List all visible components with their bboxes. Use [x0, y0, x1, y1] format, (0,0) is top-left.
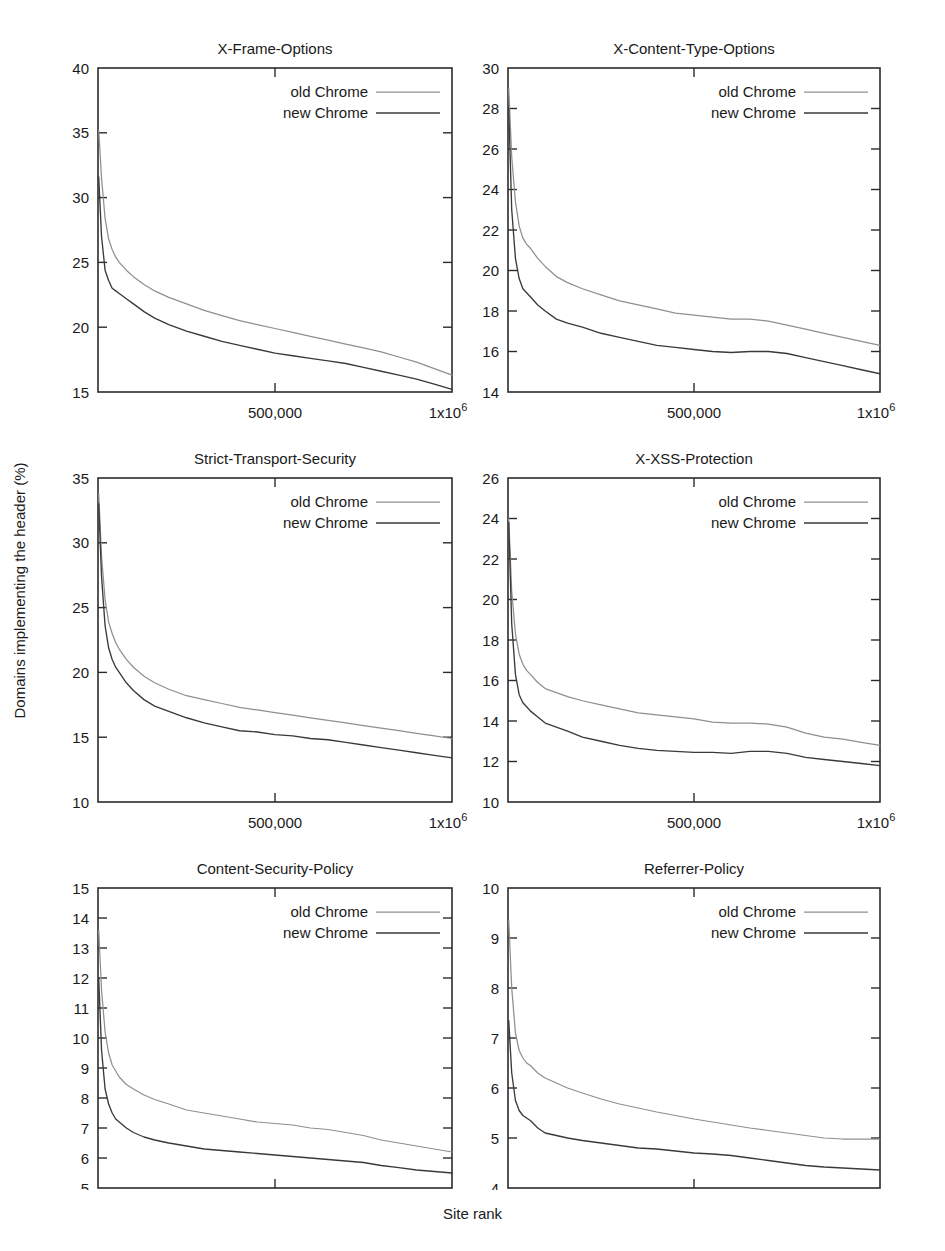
legend-entry-new-label: new Chrome: [283, 104, 368, 121]
x-tick-label: 1x106: [857, 811, 896, 831]
y-tick-label: 22: [482, 222, 499, 239]
y-tick-label: 14: [482, 384, 499, 401]
y-tick-label: 15: [72, 729, 89, 746]
legend-entry-new-label: new Chrome: [711, 104, 796, 121]
y-tick-label: 22: [482, 551, 499, 568]
y-tick-label: 15: [72, 384, 89, 401]
y-tick-label: 15: [72, 880, 89, 897]
y-tick-label: 16: [482, 672, 499, 689]
series-old-chrome: [99, 930, 452, 1152]
y-tick-label: 8: [81, 1090, 89, 1107]
panel-title: X-XSS-Protection: [635, 450, 753, 467]
axis-frame: [508, 478, 880, 802]
y-tick-label: 24: [482, 181, 499, 198]
panel-title: Content-Security-Policy: [197, 860, 354, 877]
y-tick-label: 35: [72, 470, 89, 487]
y-tick-label: 10: [72, 1030, 89, 1047]
panel-6: Referrer-Policy45678910500,0001x106old C…: [482, 860, 895, 1190]
x-tick-label: 1x106: [429, 811, 468, 831]
panel-title: Strict-Transport-Security: [194, 450, 356, 467]
y-tick-label: 16: [482, 343, 499, 360]
plot-grid: X-Frame-Options152025303540500,0001x106o…: [0, 0, 945, 1190]
legend-entry-old-label: old Chrome: [718, 903, 796, 920]
y-tick-label: 40: [72, 60, 89, 77]
legend-entry-new-label: new Chrome: [711, 514, 796, 531]
y-tick-label: 13: [72, 940, 89, 957]
y-tick-label: 6: [81, 1150, 89, 1167]
x-tick-label: 500,000: [667, 404, 721, 421]
legend-entry-new-label: new Chrome: [283, 924, 368, 941]
y-tick-label: 35: [72, 124, 89, 141]
legend-entry-old-label: old Chrome: [290, 493, 368, 510]
series-new-chrome: [509, 109, 880, 374]
legend-entry-new-label: new Chrome: [283, 514, 368, 531]
series-new-chrome: [509, 523, 880, 766]
panel-2: X-Content-Type-Options141618202224262830…: [482, 40, 895, 421]
y-tick-label: 9: [81, 1060, 89, 1077]
y-tick-label: 9: [491, 930, 499, 947]
y-tick-label: 24: [482, 510, 499, 527]
series-old-chrome: [509, 88, 880, 345]
series-old-chrome: [99, 130, 452, 375]
series-old-chrome: [509, 519, 880, 746]
panel-5: Content-Security-Policy56789101112131415…: [72, 860, 467, 1190]
x-tick-label: 1x106: [857, 401, 896, 421]
panel-title: X-Frame-Options: [217, 40, 332, 57]
panel-1: X-Frame-Options152025303540500,0001x106o…: [72, 40, 467, 421]
series-new-chrome: [99, 504, 452, 758]
y-tick-label: 11: [73, 1000, 89, 1017]
y-tick-label: 30: [482, 60, 499, 77]
y-tick-label: 7: [491, 1030, 499, 1047]
x-tick-label: 500,000: [667, 814, 721, 831]
y-tick-label: 10: [482, 880, 499, 897]
legend-entry-old-label: old Chrome: [290, 903, 368, 920]
y-tick-label: 5: [81, 1180, 89, 1191]
y-tick-label: 20: [482, 262, 499, 279]
series-old-chrome: [509, 921, 880, 1140]
y-tick-label: 25: [72, 254, 89, 271]
series-new-chrome: [509, 1021, 880, 1171]
y-tick-label: 30: [72, 189, 89, 206]
y-tick-label: 14: [72, 910, 89, 927]
x-tick-label: 1x106: [429, 401, 468, 421]
x-tick-label: 500,000: [248, 404, 302, 421]
legend-entry-old-label: old Chrome: [718, 493, 796, 510]
y-tick-label: 4: [491, 1180, 499, 1191]
y-tick-label: 26: [482, 470, 499, 487]
panel-4: X-XSS-Protection101214161820222426500,00…: [482, 450, 895, 831]
y-tick-label: 12: [482, 753, 499, 770]
series-new-chrome: [99, 978, 452, 1173]
panel-title: Referrer-Policy: [644, 860, 745, 877]
axis-frame: [508, 68, 880, 392]
y-tick-label: 25: [72, 599, 89, 616]
y-tick-label: 28: [482, 100, 499, 117]
y-tick-label: 18: [482, 303, 499, 320]
panel-title: X-Content-Type-Options: [613, 40, 775, 57]
figure-container: Domains implementing the header (%) X-Fr…: [0, 0, 945, 1251]
y-tick-label: 5: [491, 1130, 499, 1147]
y-tick-label: 18: [482, 632, 499, 649]
legend-entry-old-label: old Chrome: [718, 83, 796, 100]
x-axis-label: Site rank: [0, 1205, 945, 1222]
y-tick-label: 20: [72, 664, 89, 681]
y-tick-label: 6: [491, 1080, 499, 1097]
legend-entry-old-label: old Chrome: [290, 83, 368, 100]
axis-frame: [98, 68, 452, 392]
axis-frame: [98, 478, 452, 802]
y-tick-label: 26: [482, 141, 499, 158]
series-old-chrome: [99, 494, 452, 739]
y-tick-label: 8: [491, 980, 499, 997]
y-tick-label: 14: [482, 713, 499, 730]
y-tick-label: 20: [482, 591, 499, 608]
y-tick-label: 10: [482, 794, 499, 811]
x-tick-label: 500,000: [248, 814, 302, 831]
y-tick-label: 12: [72, 970, 89, 987]
panel-3: Strict-Transport-Security101520253035500…: [72, 450, 467, 831]
legend-entry-new-label: new Chrome: [711, 924, 796, 941]
y-tick-label: 20: [72, 319, 89, 336]
y-tick-label: 30: [72, 534, 89, 551]
y-tick-label: 7: [81, 1120, 89, 1137]
y-tick-label: 10: [72, 794, 89, 811]
